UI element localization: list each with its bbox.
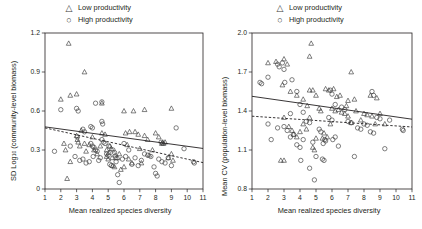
svg-text:4: 4 <box>298 194 302 201</box>
svg-text:10: 10 <box>392 194 400 201</box>
svg-text:11: 11 <box>199 194 206 201</box>
svg-text:0.8: 0.8 <box>238 185 248 192</box>
plot-area-left: 123456789101100.30.60.91.2 <box>0 0 211 229</box>
svg-text:5: 5 <box>314 194 318 201</box>
figure-root: △ Low productivity ○ High productivity S… <box>0 0 422 229</box>
svg-text:5: 5 <box>106 194 110 201</box>
x-axis-label-right: Mean realized species diversity <box>239 206 419 215</box>
svg-text:3: 3 <box>282 194 286 201</box>
svg-text:1: 1 <box>43 194 47 201</box>
svg-text:1.7: 1.7 <box>238 68 248 75</box>
svg-text:7: 7 <box>138 194 142 201</box>
svg-text:7: 7 <box>346 194 350 201</box>
svg-text:1: 1 <box>250 194 254 201</box>
svg-text:8: 8 <box>362 194 366 201</box>
svg-text:11: 11 <box>408 194 415 201</box>
svg-text:3: 3 <box>75 194 79 201</box>
svg-text:10: 10 <box>183 194 191 201</box>
svg-text:1.2: 1.2 <box>31 29 41 36</box>
svg-text:0: 0 <box>36 185 40 192</box>
svg-text:4: 4 <box>91 194 95 201</box>
svg-text:2: 2 <box>266 194 270 201</box>
x-axis-label-left: Mean realized species diversity <box>30 206 210 215</box>
svg-text:8: 8 <box>154 194 158 201</box>
chart-panel-left: △ Low productivity ○ High productivity S… <box>0 0 211 229</box>
svg-text:0.3: 0.3 <box>31 146 41 153</box>
svg-text:9: 9 <box>378 194 382 201</box>
svg-text:1.1: 1.1 <box>238 146 248 153</box>
svg-text:0.9: 0.9 <box>31 68 41 75</box>
svg-text:0.6: 0.6 <box>31 107 41 114</box>
svg-text:2.0: 2.0 <box>238 29 248 36</box>
plot-area-right: 12345678910110.81.11.41.72.0 <box>211 0 422 229</box>
svg-text:1.4: 1.4 <box>238 107 248 114</box>
svg-text:9: 9 <box>170 194 174 201</box>
chart-panel-right: △ Low productivity ○ High productivity M… <box>211 0 422 229</box>
svg-text:6: 6 <box>122 194 126 201</box>
svg-text:6: 6 <box>330 194 334 201</box>
svg-text:2: 2 <box>59 194 63 201</box>
